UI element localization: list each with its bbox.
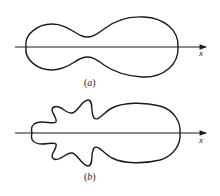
panel-caption-b: (b)	[84, 171, 96, 183]
x-axis-label-b: x	[198, 135, 203, 145]
panel-caption-a: (a)	[84, 77, 96, 89]
figure-canvas: x (a) x (b)	[0, 0, 220, 196]
x-axis-label-a: x	[198, 48, 203, 58]
panel-a: x (a)	[15, 17, 206, 89]
panel-b: x (b)	[15, 100, 206, 183]
